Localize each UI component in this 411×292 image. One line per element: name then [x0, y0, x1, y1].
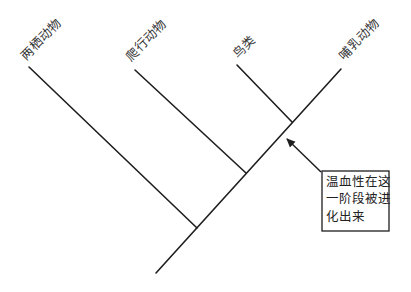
cladogram-diagram: 两栖动物 爬行动物 鸟类 哺乳动物 温血性在这 一阶段被进 化出来 [0, 0, 411, 292]
taxon-label-mammals: 哺乳动物 [335, 15, 382, 62]
annotation-callout: 温血性在这 一阶段被进 化出来 [322, 171, 391, 231]
annotation-line-3: 化出来 [326, 209, 365, 224]
annotation-arrow-icon [287, 139, 321, 172]
branch-reptiles [135, 70, 246, 173]
annotation-line-1: 温血性在这 [326, 174, 391, 189]
taxon-label-amphibians: 两栖动物 [17, 15, 64, 62]
taxon-label-reptiles: 爬行动物 [122, 16, 169, 63]
branch-amphibians [29, 67, 197, 228]
annotation-line-2: 一阶段被进 [326, 191, 391, 206]
taxon-label-birds: 鸟类 [230, 33, 259, 62]
branch-birds [237, 65, 292, 122]
trunk-line [156, 69, 341, 273]
